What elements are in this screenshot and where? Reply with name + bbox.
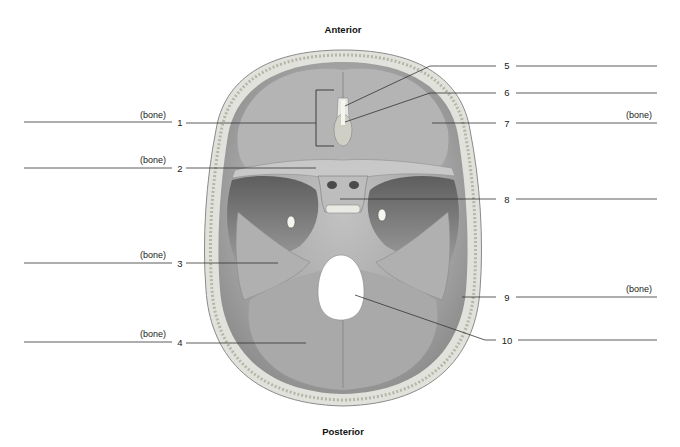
label-2-number: 2 bbox=[176, 164, 183, 174]
label-6-number: 6 bbox=[503, 88, 510, 98]
label-1-number: 1 bbox=[176, 118, 183, 128]
skull-illustration bbox=[0, 0, 680, 447]
foramen-magnum bbox=[318, 255, 364, 320]
label-4-number: 4 bbox=[176, 338, 183, 348]
label-9-bone-hint: (bone) bbox=[626, 285, 652, 294]
label-4-bone-hint: (bone) bbox=[140, 330, 166, 339]
label-9-number: 9 bbox=[503, 293, 510, 303]
label-2-bone-hint: (bone) bbox=[140, 156, 166, 165]
label-3-number: 3 bbox=[176, 259, 183, 269]
label-7-number: 7 bbox=[503, 119, 510, 129]
label-7-bone-hint: (bone) bbox=[626, 111, 652, 120]
label-1-bone-hint: (bone) bbox=[140, 111, 166, 120]
label-5-number: 5 bbox=[503, 61, 510, 71]
label-8-number: 8 bbox=[503, 195, 510, 205]
label-3-bone-hint: (bone) bbox=[140, 251, 166, 260]
label-10-number: 10 bbox=[501, 336, 514, 346]
